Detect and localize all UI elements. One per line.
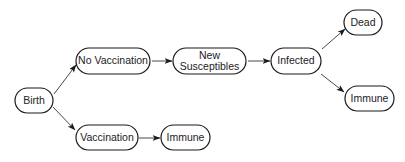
arrow-infected-to-dead	[322, 29, 345, 49]
node-immune-vaccinated: Immune	[161, 125, 210, 150]
node-label: Infected	[277, 54, 315, 66]
node-birth: Birth	[15, 88, 53, 113]
node-label: Susceptibles	[180, 60, 240, 72]
node-label: Birth	[23, 94, 45, 106]
node-vaccination: Vaccination	[76, 125, 138, 150]
arrow-birth-to-no-vaccination	[54, 65, 76, 94]
node-infected: Infected	[271, 48, 321, 74]
flow-diagram: BirthNo VaccinationNewSusceptiblesInfect…	[0, 0, 405, 162]
node-new-susceptibles: NewSusceptibles	[173, 48, 246, 74]
node-immune-infected: Immune	[345, 86, 394, 111]
node-label: No Vaccination	[78, 54, 148, 66]
edges	[53, 29, 345, 138]
node-label: Dead	[350, 16, 375, 28]
node-label: Immune	[351, 92, 389, 104]
node-label: Vaccination	[80, 131, 134, 143]
arrow-infected-to-immune-infected	[321, 74, 344, 92]
arrow-birth-to-vaccination	[53, 107, 75, 130]
node-no-vaccination: No Vaccination	[76, 48, 150, 74]
nodes: BirthNo VaccinationNewSusceptiblesInfect…	[15, 10, 394, 150]
node-label: Immune	[167, 131, 205, 143]
node-dead: Dead	[344, 10, 382, 35]
